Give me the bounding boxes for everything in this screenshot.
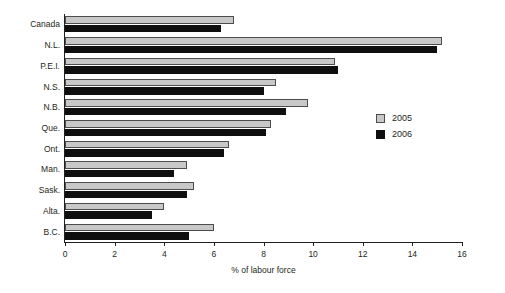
x-tick-label-12: 12 xyxy=(348,249,378,259)
bar-2005-b-c xyxy=(65,224,214,232)
y-axis-label-ont: Ont. xyxy=(2,144,60,154)
bar-2006-b-c xyxy=(65,232,189,240)
y-axis-label-p-e-i: P.E.I. xyxy=(2,61,60,71)
y-axis-label-b-c: B.C. xyxy=(2,227,60,237)
bar-2006-alta xyxy=(65,211,152,219)
legend-item-2006: 2006 xyxy=(376,126,412,142)
x-axis-title-text: % of labour force xyxy=(209,265,295,275)
bar-2005-n-l xyxy=(65,37,442,45)
y-axis-label-n-l: N.L. xyxy=(2,40,60,50)
x-tick-label-14: 14 xyxy=(397,249,427,259)
x-tick-mark-6 xyxy=(214,242,215,246)
legend-swatch-2006 xyxy=(376,130,385,139)
bar-2006-n-b xyxy=(65,108,286,116)
x-tick-mark-14 xyxy=(412,242,413,246)
legend-item-2005: 2005 xyxy=(376,110,412,126)
x-tick-mark-2 xyxy=(115,242,116,246)
x-tick-mark-16 xyxy=(462,242,463,246)
bar-2006-ont xyxy=(65,149,224,157)
x-tick-label-10: 10 xyxy=(298,249,328,259)
bar-2005-sask xyxy=(65,182,194,190)
legend-label-2006: 2006 xyxy=(392,129,412,139)
y-axis-label-n-b: N.B. xyxy=(2,102,60,112)
bar-2005-canada xyxy=(65,16,234,24)
x-tick-label-6: 6 xyxy=(199,249,229,259)
y-axis-label-canada: Canada xyxy=(2,19,60,29)
bar-2006-man xyxy=(65,170,174,178)
x-tick-mark-0 xyxy=(65,242,66,246)
y-axis-label-sask: Sask. xyxy=(2,185,60,195)
bar-2006-que xyxy=(65,129,266,137)
x-tick-mark-10 xyxy=(313,242,314,246)
y-axis-label-alta: Alta. xyxy=(2,206,60,216)
bar-2005-n-b xyxy=(65,99,308,107)
y-axis-label-n-s: N.S. xyxy=(2,82,60,92)
x-tick-label-2: 2 xyxy=(100,249,130,259)
y-axis-category-labels: CanadaN.L.P.E.I.N.S.N.B.Que.Ont.Man.Sask… xyxy=(0,14,60,242)
bar-2005-ont xyxy=(65,141,229,149)
x-tick-mark-4 xyxy=(164,242,165,246)
y-axis-label-man: Man. xyxy=(2,164,60,174)
bar-2006-p-e-i xyxy=(65,66,338,74)
x-tick-mark-8 xyxy=(264,242,265,246)
bar-2006-canada xyxy=(65,25,221,33)
x-axis-title: % of labour force xyxy=(0,265,505,275)
y-axis-label-que: Que. xyxy=(2,123,60,133)
x-tick-label-16: 16 xyxy=(447,249,477,259)
x-tick-label-4: 4 xyxy=(149,249,179,259)
x-tick-mark-12 xyxy=(363,242,364,246)
bar-2006-n-l xyxy=(65,46,437,54)
bar-2006-sask xyxy=(65,191,187,199)
bar-2005-alta xyxy=(65,203,164,211)
bar-chart: CanadaN.L.P.E.I.N.S.N.B.Que.Ont.Man.Sask… xyxy=(0,0,505,293)
bar-2005-n-s xyxy=(65,79,276,87)
bar-2006-n-s xyxy=(65,87,264,95)
bar-2005-que xyxy=(65,120,271,128)
bar-2005-p-e-i xyxy=(65,58,335,66)
x-tick-label-0: 0 xyxy=(50,249,80,259)
x-tick-label-8: 8 xyxy=(249,249,279,259)
chart-legend: 2005 2006 xyxy=(376,110,412,142)
legend-swatch-2005 xyxy=(376,114,385,123)
legend-label-2005: 2005 xyxy=(392,113,412,123)
bar-2005-man xyxy=(65,161,187,169)
